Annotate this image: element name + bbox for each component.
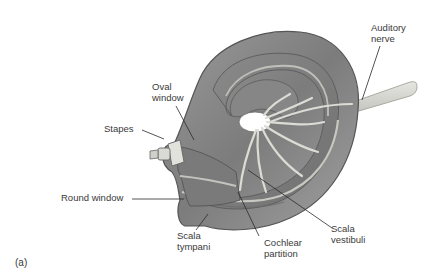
label-round-window: Round window — [61, 193, 123, 204]
label-scala-vestibuli: Scala vestibuli — [331, 224, 365, 245]
label-oval-window: Oval window — [152, 82, 184, 103]
label-auditory-nerve: Auditory nerve — [371, 23, 406, 44]
cochlea-illustration — [0, 0, 434, 276]
cochlea-body — [163, 31, 359, 229]
label-scala-tympani: Scala tympani — [177, 231, 210, 252]
label-stapes: Stapes — [104, 124, 134, 135]
label-cochlear-partition: Cochlear partition — [264, 238, 302, 259]
auditory-nerve-shape — [350, 82, 417, 113]
cochlea-diagram: Auditory nerve Oval window Stapes Round … — [0, 0, 434, 276]
panel-label: (a) — [15, 257, 27, 268]
